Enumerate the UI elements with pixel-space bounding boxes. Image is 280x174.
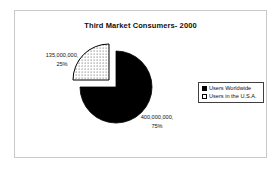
white-square-icon <box>202 94 207 99</box>
data-label-users-usa: 135,000,000, 25% <box>31 51 93 68</box>
data-label-usa-value: 135,000,000, <box>46 52 79 58</box>
data-label-world-percent: 75% <box>151 123 162 129</box>
black-square-icon <box>202 86 207 91</box>
chart-frame: Third Market Consumers- 2000 135,000,000… <box>14 10 267 158</box>
data-label-world-value: 400,000,000, <box>141 114 174 120</box>
data-label-users-worldwide: 400,000,000, 75% <box>121 113 193 130</box>
legend-item-users-usa[interactable]: Users in the U.S.A. <box>201 93 261 101</box>
legend-item-label: Users in the U.S.A. <box>209 94 257 100</box>
data-label-usa-percent: 25% <box>56 61 67 67</box>
legend-item-label: Users Worldwide <box>209 86 251 92</box>
chart-legend: Users Worldwide Users in the U.S.A. <box>198 82 264 103</box>
legend-item-users-worldwide[interactable]: Users Worldwide <box>201 85 261 93</box>
